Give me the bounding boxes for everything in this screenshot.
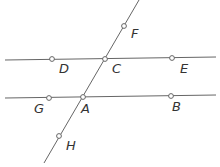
line-GB [5,95,216,98]
point-e-marker [170,56,175,61]
point-b-label: B [172,99,181,114]
point-a-label: A [80,101,90,116]
point-e-label: E [180,61,189,76]
point-a-marker [81,95,86,100]
point-c-marker [103,57,108,62]
point-g-label: G [34,101,44,116]
point-b-marker [169,94,174,99]
point-c-label: C [112,61,122,76]
point-h-label: H [66,138,76,153]
point-d-label: D [59,61,69,76]
point-f-marker [122,24,127,29]
point-g-marker [47,96,52,101]
geometry-diagram: FDCEGABH [0,0,220,167]
point-d-marker [50,57,55,62]
point-h-marker [57,134,62,139]
line-DE [5,57,216,60]
point-f-label: F [131,26,139,41]
